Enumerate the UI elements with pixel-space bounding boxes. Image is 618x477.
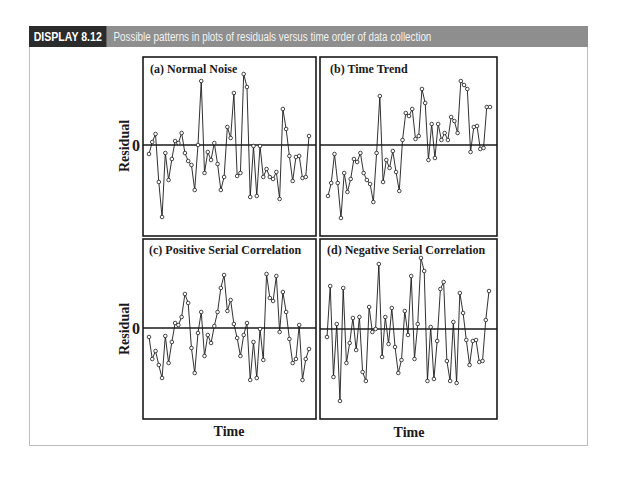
data-point (229, 136, 233, 140)
data-point (335, 322, 339, 326)
data-point (160, 376, 164, 380)
data-point (372, 200, 376, 204)
data-point (297, 154, 301, 158)
data-point (268, 296, 272, 300)
data-point (449, 115, 453, 119)
series-line (149, 274, 309, 380)
data-point (325, 335, 329, 339)
data-point (403, 309, 407, 313)
data-point (371, 330, 375, 334)
data-point (404, 111, 408, 115)
data-point (445, 359, 449, 363)
data-point (157, 363, 161, 367)
data-point (406, 333, 410, 337)
data-point (222, 273, 226, 277)
data-point (239, 354, 243, 358)
data-point (167, 178, 171, 182)
data-point (252, 144, 256, 148)
data-point (484, 318, 488, 322)
data-point (275, 274, 279, 278)
data-point (147, 152, 151, 156)
data-point (461, 311, 465, 315)
data-point (154, 132, 158, 136)
data-point (255, 376, 259, 380)
data-point (278, 197, 282, 201)
data-point (150, 357, 154, 361)
data-point (193, 188, 197, 192)
data-point (229, 298, 233, 302)
data-point (367, 305, 371, 309)
data-point (206, 150, 210, 154)
data-point (342, 171, 346, 175)
data-point (170, 157, 174, 161)
data-point (458, 291, 462, 295)
data-point (206, 333, 210, 337)
data-point (359, 151, 363, 155)
data-point (423, 101, 427, 105)
data-point (433, 156, 437, 160)
data-point (288, 154, 292, 158)
data-point (190, 346, 194, 350)
data-point (203, 354, 207, 358)
data-point (213, 324, 217, 328)
data-point (193, 371, 197, 375)
data-point (377, 262, 381, 266)
data-point (248, 378, 252, 382)
data-point (199, 310, 203, 314)
data-point (209, 341, 213, 345)
data-point (216, 310, 220, 314)
data-point (346, 190, 350, 194)
y-axis-label-top: Residual (117, 120, 132, 172)
data-point (222, 175, 226, 179)
data-point (232, 91, 236, 95)
data-point (307, 347, 311, 351)
x-axis-label-right: Time (394, 425, 425, 440)
data-point (401, 138, 405, 142)
data-point (278, 330, 282, 334)
data-point (365, 178, 369, 182)
panel-c-title: (c) Positive Serial Correlation (149, 243, 301, 257)
data-point (381, 180, 385, 184)
series-line (328, 81, 490, 218)
data-point (394, 170, 398, 174)
data-point (400, 358, 404, 362)
data-point (443, 131, 447, 135)
data-point (378, 94, 382, 98)
data-point (271, 177, 275, 181)
data-point (226, 125, 230, 129)
data-point (361, 370, 365, 374)
data-point (446, 138, 450, 142)
data-point (203, 171, 207, 175)
data-point (488, 105, 492, 109)
zero-tick-top: 0 (132, 137, 140, 154)
data-point (226, 309, 230, 313)
data-point (388, 166, 392, 170)
data-point (452, 320, 456, 324)
data-point (232, 322, 236, 326)
data-point (150, 140, 154, 144)
panel-a-title: (a) Normal Noise (150, 62, 238, 76)
data-point (157, 180, 161, 184)
data-point (436, 122, 440, 126)
data-point (384, 315, 388, 319)
data-point (328, 284, 332, 288)
data-point (482, 146, 486, 150)
data-point (281, 107, 285, 111)
data-point (475, 124, 479, 128)
data-point (391, 149, 395, 153)
data-point (294, 357, 298, 361)
panel-c-series (147, 272, 311, 382)
panel-d: (d) Negative Serial Correlation (320, 239, 497, 419)
data-point (417, 134, 421, 138)
data-point (154, 349, 158, 353)
data-point (410, 107, 414, 111)
data-point (439, 287, 443, 291)
data-point (199, 79, 203, 83)
data-point (284, 127, 288, 131)
data-point (474, 338, 478, 342)
residual-plots: (a) Normal Noise (b) Time Trend (c) Posi… (0, 0, 618, 477)
data-point (177, 323, 181, 327)
data-point (219, 188, 223, 192)
data-point (481, 359, 485, 363)
data-point (469, 150, 473, 154)
